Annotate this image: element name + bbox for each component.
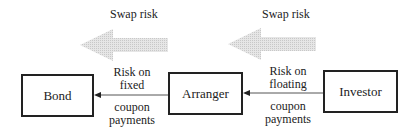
edge1-label-above: Risk on fixed [112, 66, 152, 92]
arrowhead-bond [94, 92, 101, 98]
edge2-label-line2: floating [266, 78, 310, 91]
swap-risk-label-2: Swap risk [262, 8, 310, 21]
edge1-label-line2: fixed [112, 79, 152, 92]
edge1-label-line4: payments [108, 114, 156, 127]
node-bond: Bond [21, 74, 94, 117]
edge2-label-line4: payments [264, 113, 312, 126]
node-bond-label: Bond [43, 88, 71, 104]
edge2-label-above: Risk on floating [266, 65, 310, 91]
node-arranger-label: Arranger [182, 86, 229, 102]
swap-risk-arrow-right [228, 28, 316, 60]
swap-risk-label-1: Swap risk [110, 8, 158, 21]
node-arranger: Arranger [168, 72, 243, 115]
edge2-label-below: coupon payments [264, 100, 312, 126]
swap-risk-arrow-left [80, 29, 168, 61]
node-investor: Investor [323, 70, 398, 113]
node-investor-label: Investor [339, 84, 382, 100]
arrowhead-arranger [243, 90, 250, 96]
edge1-label-below: coupon payments [108, 101, 156, 127]
